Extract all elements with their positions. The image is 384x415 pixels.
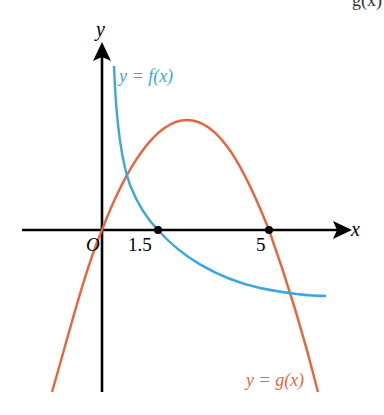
x-axis-label: x: [350, 218, 360, 240]
tick-label-1-5: 1.5: [128, 234, 152, 255]
curve-f-label: y = f(x): [117, 66, 173, 87]
y-axis-label: y: [94, 18, 105, 41]
point-1-5: [154, 226, 162, 234]
point-5: [265, 226, 273, 234]
tick-label-5: 5: [256, 234, 266, 255]
graph-canvas: g(x) y x O 1.5 5 y = f(x) y = g(x): [0, 0, 384, 415]
curve-f: [114, 66, 326, 296]
origin-label: O: [86, 234, 100, 255]
curve-g-label: y = g(x): [244, 370, 304, 391]
header-fragment: g(x): [352, 0, 382, 11]
